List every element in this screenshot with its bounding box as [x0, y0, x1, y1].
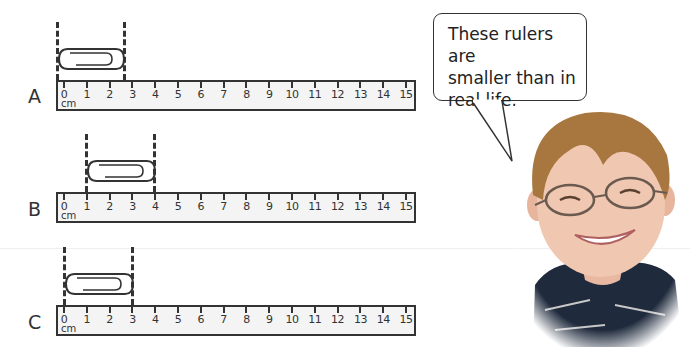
- ruler-tick-label: 0: [61, 313, 68, 326]
- ruler-tick-label: 9: [266, 88, 273, 101]
- ruler-tick-label: 15: [400, 200, 413, 213]
- ruler-a: cm 0123456789101112131415: [56, 80, 416, 111]
- ruler-tick-label: 6: [198, 200, 205, 213]
- row-label-c: C: [28, 311, 41, 333]
- ruler-tick-label: 9: [266, 200, 273, 213]
- ruler-tick-label: 10: [286, 200, 299, 213]
- ruler-tick-label: 5: [175, 313, 182, 326]
- ruler-tick-label: 7: [220, 313, 227, 326]
- ruler-tick-label: 1: [84, 313, 91, 326]
- ruler-tick-label: 6: [198, 88, 205, 101]
- ruler-tick-label: 5: [175, 200, 182, 213]
- ruler-tick-label: 3: [129, 200, 136, 213]
- ruler-tick-label: 11: [308, 200, 321, 213]
- ruler-tick-label: 4: [152, 200, 159, 213]
- ruler-tick-label: 1: [84, 200, 91, 213]
- ruler-tick-label: 13: [354, 313, 367, 326]
- ruler-c: cm 0123456789101112131415: [56, 305, 416, 336]
- ruler-tick-label: 0: [61, 88, 68, 101]
- row-label-a: A: [28, 85, 41, 107]
- ruler-tick-label: 8: [243, 200, 250, 213]
- speech-bubble-tail: [470, 99, 520, 165]
- speech-line-1: These rulers are: [448, 23, 583, 67]
- ruler-tick-label: 1: [84, 88, 91, 101]
- ruler-tick-label: 14: [377, 200, 390, 213]
- row-label-b: B: [28, 198, 41, 220]
- ruler-tick-label: 7: [220, 200, 227, 213]
- ruler-tick-label: 12: [331, 200, 344, 213]
- ruler-tick-label: 14: [377, 88, 390, 101]
- ruler-tick-label: 11: [308, 313, 321, 326]
- ruler-tick-label: 10: [286, 313, 299, 326]
- speech-bubble-text: These rulers are smaller than in real li…: [448, 23, 583, 111]
- ruler-tick-label: 5: [175, 88, 182, 101]
- ruler-tick-label: 2: [106, 313, 113, 326]
- ruler-tick-label: 13: [354, 88, 367, 101]
- ruler-tick-label: 15: [400, 313, 413, 326]
- ruler-tick-label: 8: [243, 88, 250, 101]
- ruler-tick-label: 15: [400, 88, 413, 101]
- ruler-tick-label: 12: [331, 313, 344, 326]
- ruler-tick-label: 9: [266, 313, 273, 326]
- ruler-tick-label: 10: [286, 88, 299, 101]
- ruler-tick-label: 12: [331, 88, 344, 101]
- ruler-tick-label: 2: [106, 88, 113, 101]
- ruler-tick-label: 13: [354, 200, 367, 213]
- ruler-tick-label: 6: [198, 313, 205, 326]
- ruler-tick-label: 14: [377, 313, 390, 326]
- paperclip-icon: [63, 271, 135, 299]
- ruler-tick-label: 3: [129, 313, 136, 326]
- ruler-tick-label: 4: [152, 313, 159, 326]
- speech-line-2: smaller than in: [448, 67, 583, 89]
- ruler-tick-label: 11: [308, 88, 321, 101]
- speech-bubble: These rulers are smaller than in real li…: [433, 13, 587, 101]
- paperclip-icon: [85, 158, 157, 186]
- ruler-tick-label: 8: [243, 313, 250, 326]
- ruler-tick-label: 7: [220, 88, 227, 101]
- ruler-tick-label: 0: [61, 200, 68, 213]
- ruler-tick-label: 4: [152, 88, 159, 101]
- ruler-tick-label: 3: [129, 88, 136, 101]
- paperclip-icon: [56, 46, 126, 74]
- boy-photo: [515, 105, 691, 347]
- ruler-b: cm 0123456789101112131415: [56, 192, 416, 223]
- ruler-tick-label: 2: [106, 200, 113, 213]
